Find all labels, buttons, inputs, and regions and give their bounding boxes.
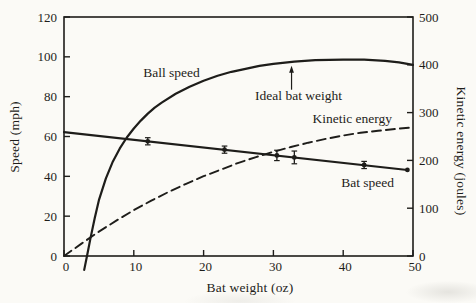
left-y-tick-label: 20 [44, 209, 57, 224]
x-axis-tick-label: 10 [129, 259, 142, 274]
kinetic-energy-curve [64, 127, 413, 256]
data-point-marker [405, 168, 410, 173]
right-y-tick-label: 400 [419, 57, 439, 72]
data-point-marker [292, 155, 297, 160]
left-y-tick-label: 100 [38, 49, 58, 64]
left-y-tick-label: 40 [44, 169, 57, 184]
x-axis-title: Bat weight (oz) [207, 280, 294, 296]
right-y-axis-title: Kinetic energy (joules) [453, 87, 469, 216]
right-y-tick-label: 100 [419, 201, 439, 216]
left-y-tick-label: 60 [44, 129, 57, 144]
right-y-tick-label: 500 [419, 10, 439, 25]
right-y-tick-label: 0 [419, 249, 426, 264]
left-y-axis-title: Speed (mph) [7, 101, 23, 173]
x-axis-tick-label: 30 [269, 259, 282, 274]
right-y-tick-label: 200 [419, 153, 439, 168]
kinetic-energy-label: Kinetic energy [312, 111, 392, 126]
left-y-tick-label: 120 [38, 10, 58, 25]
left-y-tick-label: 0 [51, 249, 58, 264]
data-point-marker [222, 147, 227, 152]
x-axis-tick-label: 40 [339, 259, 352, 274]
data-point-marker [274, 153, 279, 158]
ideal-bat-weight-arrowhead [289, 66, 294, 73]
data-point-marker [362, 163, 367, 168]
left-y-tick-label: 80 [44, 89, 57, 104]
ideal-bat-weight-label: Ideal bat weight [255, 88, 342, 103]
bat-weight-chart-figure: 0102030405002040608010012001002003004005… [0, 0, 476, 303]
x-axis-tick-label: 20 [199, 259, 212, 274]
chart-plot-area: 0102030405002040608010012001002003004005… [0, 0, 476, 303]
bat-speed-label: Bat speed [341, 175, 394, 190]
data-point-marker [145, 139, 150, 144]
ball-speed-label: Ball speed [143, 65, 200, 80]
x-axis-tick-label: 0 [63, 259, 70, 274]
right-y-tick-label: 300 [419, 105, 439, 120]
